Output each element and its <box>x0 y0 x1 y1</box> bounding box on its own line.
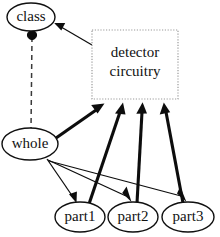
diagram-svg: detector circuitry class whole part1 par… <box>0 0 220 237</box>
arrowhead <box>122 187 131 203</box>
edge-whole-to-part1 <box>47 159 77 203</box>
part2-label: part2 <box>118 208 149 224</box>
part3-label: part3 <box>173 208 204 224</box>
detector-circuitry-label-line2: circuitry <box>110 63 161 79</box>
part1-label: part1 <box>65 208 96 224</box>
node-whole[interactable]: whole <box>2 128 58 160</box>
edge-part1-to-detector <box>89 103 126 205</box>
arrowhead <box>160 102 171 114</box>
arrowhead <box>54 23 65 31</box>
node-part2[interactable]: part2 <box>108 202 158 232</box>
node-part1[interactable]: part1 <box>55 202 105 232</box>
edge-part2-to-detector <box>136 102 147 203</box>
node-detector-circuitry[interactable]: detector circuitry <box>92 30 178 99</box>
node-class[interactable]: class <box>7 3 55 31</box>
whole-label: whole <box>12 135 49 151</box>
filled-ball-decoration <box>27 30 36 39</box>
edge-whole-to-part3 <box>49 161 187 202</box>
diagram-canvas: detector circuitry class whole part1 par… <box>0 0 220 237</box>
edge-whole-to-detector <box>56 104 105 139</box>
arrowhead <box>136 102 147 114</box>
arrowhead <box>115 103 126 115</box>
edge-part3-to-detector <box>160 102 183 203</box>
class-label: class <box>16 8 45 24</box>
node-part3[interactable]: part3 <box>162 202 214 232</box>
edge-detector-to-class <box>54 23 92 45</box>
edge-class-to-whole <box>27 30 36 130</box>
edge-whole-to-part2 <box>48 160 132 202</box>
detector-circuitry-label-line1: detector <box>111 44 159 60</box>
